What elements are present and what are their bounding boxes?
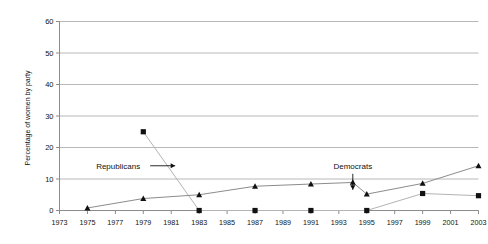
y-tick-label-50: 50: [45, 49, 53, 58]
x-tick-label-1975: 1975: [79, 218, 95, 227]
x-tick-label-1979: 1979: [135, 218, 151, 227]
data-point-marker: [141, 129, 146, 134]
y-tick-label-20: 20: [45, 143, 53, 152]
x-axis-ticks: 1973197519771979198119831985198719891991…: [52, 211, 487, 227]
republicans-annotation-label: Republicans: [96, 162, 140, 171]
data-point-marker: [308, 208, 313, 213]
x-tick-label-1999: 1999: [415, 218, 431, 227]
y-axis-ticks: 0102030405060: [45, 17, 59, 215]
x-tick-label-2003: 2003: [471, 218, 487, 227]
x-tick-label-1989: 1989: [275, 218, 291, 227]
y-tick-label-10: 10: [45, 175, 53, 184]
democrats-annotation-label: Democrats: [333, 162, 372, 171]
data-point-marker: [420, 191, 425, 196]
y-tick-label-0: 0: [49, 206, 53, 215]
x-tick-label-1995: 1995: [359, 218, 375, 227]
x-tick-label-1993: 1993: [331, 218, 347, 227]
x-tick-label-1973: 1973: [52, 218, 68, 227]
y-tick-label-60: 60: [45, 17, 53, 26]
data-point-marker: [476, 193, 481, 198]
x-tick-label-1987: 1987: [247, 218, 263, 227]
x-tick-label-2001: 2001: [443, 218, 459, 227]
x-tick-label-1991: 1991: [303, 218, 319, 227]
x-tick-label-1985: 1985: [219, 218, 235, 227]
chart-container: 0102030405060197319751977197919811983198…: [0, 0, 488, 244]
x-tick-label-1981: 1981: [163, 218, 179, 227]
x-tick-label-1983: 1983: [191, 218, 207, 227]
y-tick-label-30: 30: [45, 112, 53, 121]
data-point-marker: [252, 208, 257, 213]
y-tick-label-40: 40: [45, 80, 53, 89]
line-chart: 0102030405060197319751977197919811983198…: [0, 0, 488, 244]
x-tick-label-1997: 1997: [387, 218, 403, 227]
y-axis-title: Percentage of women by party: [24, 70, 32, 165]
data-point-marker: [364, 208, 369, 213]
data-point-marker: [197, 208, 202, 213]
x-tick-label-1977: 1977: [107, 218, 123, 227]
